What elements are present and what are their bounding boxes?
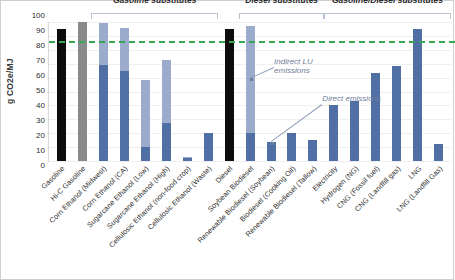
group-label: Diesel substitutes	[239, 0, 324, 5]
bar-hydrogen-ng[interactable]	[350, 101, 359, 161]
bar-segment-direct	[57, 29, 66, 161]
bar-segment-direct	[371, 73, 380, 161]
y-tick-90: 90	[36, 27, 45, 35]
x-tick-label: LNG	[406, 164, 423, 181]
x-label-slot: LNG (Landfill Gas)	[427, 162, 448, 280]
bar-segment-direct	[308, 140, 317, 161]
bracket-line	[239, 13, 324, 19]
bar-sugarcane-ethanol-high[interactable]	[162, 60, 171, 161]
bar-renewable-biodiesel-tallow[interactable]	[308, 140, 317, 161]
bar-lng-landfill-gas[interactable]	[434, 144, 443, 161]
bar-segment-direct	[434, 144, 443, 161]
y-tick-70: 70	[36, 57, 45, 65]
y-tick-80: 80	[36, 42, 45, 50]
y-axis-tick-labels: 1009080706050403020100	[17, 16, 47, 166]
bar-segment-direct	[141, 147, 150, 161]
annotation-label: Direct emissions	[322, 94, 381, 103]
y-tick-10: 10	[36, 147, 45, 155]
bar-cellulosic-ethanol-non-food-crop[interactable]	[183, 157, 192, 161]
plot-area: Gasoline substitutesDiesel substitutesGa…	[48, 22, 451, 162]
threshold-line	[49, 41, 455, 43]
x-axis-tick-labels: GasolineHi-C GasolineCorn Ethanol (Midwe…	[48, 162, 450, 280]
y-tick-100: 100	[32, 12, 45, 20]
bar-electricity[interactable]	[329, 105, 338, 161]
bar-segment-direct	[413, 29, 422, 161]
bar-segment-direct	[204, 133, 213, 161]
y-axis-title: g CO2e/MJ	[3, 1, 17, 161]
group-bracket: Gasoline/Diesel substitutes	[324, 5, 451, 15]
group-label: Gasoline substitutes	[91, 0, 218, 5]
bar-segment-indirect	[99, 23, 108, 65]
bar-segment-direct	[246, 133, 255, 161]
y-tick-30: 30	[36, 117, 45, 125]
bar-segment-direct	[287, 133, 296, 161]
bar-cng-fossil-fuel[interactable]	[371, 73, 380, 161]
bar-segment-direct	[162, 123, 171, 161]
bar-segment-direct	[99, 65, 108, 161]
bar-corn-ethanol-ca[interactable]	[120, 28, 129, 161]
bar-biodiesel-cooking-oil[interactable]	[287, 133, 296, 161]
bar-sugarcane-ethanol-low[interactable]	[141, 80, 150, 161]
group-bracket: Gasoline substitutes	[91, 5, 218, 15]
y-tick-40: 40	[36, 102, 45, 110]
bar-segment-direct	[350, 101, 359, 161]
bar-soybean-biodiesel[interactable]	[246, 26, 255, 161]
bar-corn-ethanol-midwest[interactable]	[99, 23, 108, 161]
y-tick-20: 20	[36, 132, 45, 140]
group-label: Gasoline/Diesel substitutes	[324, 0, 451, 5]
bar-segment-indirect	[162, 60, 171, 124]
bracket-line	[91, 13, 218, 19]
bar-diesel[interactable]	[225, 29, 234, 161]
y-tick-60: 60	[36, 72, 45, 80]
bar-segment-direct	[392, 66, 401, 161]
bar-gasoline[interactable]	[57, 29, 66, 161]
bar-segment-direct	[183, 158, 192, 161]
bar-cng-landfill-gas[interactable]	[392, 66, 401, 161]
bar-lng[interactable]	[413, 29, 422, 161]
y-tick-50: 50	[36, 87, 45, 95]
annotation-label: Indirect LU emissions	[274, 57, 313, 75]
bar-segment-direct	[329, 105, 338, 161]
annotation-pointer	[271, 142, 274, 145]
bar-segment-direct	[120, 71, 129, 161]
bar-segment-direct	[225, 29, 234, 161]
bar-cellulosic-ethanol-waste[interactable]	[204, 133, 213, 161]
group-bracket: Diesel substitutes	[239, 5, 324, 15]
bar-segment-indirect	[120, 28, 129, 71]
bracket-line	[324, 13, 451, 19]
bar-segment-indirect	[141, 80, 150, 147]
x-label-slot: CNG (Landfill gas)	[385, 162, 406, 280]
y-tick-0: 0	[41, 162, 45, 170]
